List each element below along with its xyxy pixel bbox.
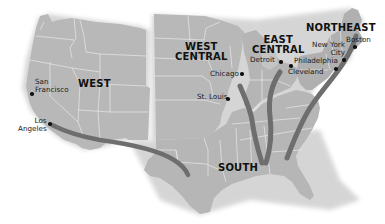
city-label-los-angeles-line2: Angeles: [18, 125, 47, 133]
city-label-philadelphia: Philadelphia: [294, 57, 338, 65]
city-label-detroit: Detroit: [250, 56, 275, 64]
region-label-east-central-line2: CENTRAL: [252, 45, 305, 55]
city-label-new-york-city: New York City: [312, 41, 345, 57]
city-dot-cleveland: [289, 64, 293, 68]
region-label-east-central: EAST CENTRAL: [252, 35, 305, 55]
city-dot-philadelphia: [334, 67, 338, 71]
city-dot-boston: [353, 45, 357, 49]
city-dot-new-york-city: [342, 58, 346, 62]
region-label-west: WEST: [78, 79, 111, 89]
city-dot-st-louis: [226, 97, 230, 101]
city-label-boston: Boston: [346, 36, 371, 44]
city-dot-los-angeles: [48, 122, 52, 126]
city-label-san-francisco-line2: Francisco: [35, 86, 69, 94]
city-dot-san-francisco: [30, 92, 34, 96]
region-label-south: SOUTH: [218, 163, 258, 173]
city-label-los-angeles: Los Angeles: [18, 117, 47, 133]
region-label-west-central-line2: CENTRAL: [175, 52, 228, 62]
city-label-chicago: Chicago: [210, 70, 239, 78]
us-migration-map: [0, 0, 385, 224]
city-dot-detroit: [279, 60, 283, 64]
region-label-west-central: WEST CENTRAL: [175, 42, 228, 62]
city-dot-chicago: [240, 72, 244, 76]
city-label-st-louis: St. Louis: [197, 93, 228, 101]
city-label-san-francisco: San Francisco: [35, 78, 69, 94]
region-label-northeast: NORTHEAST: [306, 23, 376, 33]
city-label-cleveland: Cleveland: [288, 68, 324, 76]
